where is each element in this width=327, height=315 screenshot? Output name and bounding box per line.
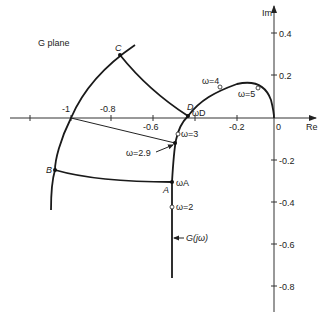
curve-label: G(jω) [186,233,208,243]
point-b [53,168,57,172]
label-c: C [115,43,122,53]
origin-label: 0 [276,122,281,132]
tick-label-0-2: 0.2 [279,71,292,81]
plane-label: G plane [38,38,70,48]
outer-arc [51,45,135,210]
tick-label-minus-0-2: -0.2 [229,122,245,132]
tick-label-minus-0-4: -0.4 [279,198,295,208]
imag-axis-label: Im [262,8,272,18]
tick-label-minus-0-8: -0.8 [279,282,295,292]
point-w29 [173,141,177,145]
point-w2 [170,205,174,209]
label-w3: ω=3 [181,129,198,139]
real-axis-label: Re [306,122,318,132]
point-w3 [176,132,180,136]
label-w5: ω=5 [238,89,255,99]
label-w29: ω=2.9 [126,148,151,158]
point-c [118,53,122,57]
arc-c-to-d [120,55,188,116]
point-a [170,180,174,184]
line-minus1-to-w29 [71,118,175,143]
tick-label-minus-0-8: -0.8 [100,104,116,114]
label-w-d: ωD [192,108,206,118]
point-d [186,114,190,118]
label-w-a: ωA [176,178,189,188]
nyquist-diagram: -1 -0.8 -0.6 -0.2 0 Re Im 0.4 0.2 -0.2 -… [0,0,327,315]
tick-label-minus-0-6: -0.6 [279,240,295,250]
w29-pointer [156,145,173,152]
tick-label-minus-0-6: -0.6 [143,122,159,132]
label-b: B [46,165,52,175]
arc-b-to-a [55,170,172,182]
tick-label-0-4: 0.4 [279,29,292,39]
label-w2: ω=2 [176,202,193,212]
label-w4: ω=4 [202,76,219,86]
imag-axis [271,6,277,312]
tick-label-minus-1: -1 [62,104,70,114]
point-w5 [256,86,260,90]
label-a: A [162,185,169,195]
tick-label-minus-0-2: -0.2 [279,156,295,166]
real-axis [10,115,316,121]
